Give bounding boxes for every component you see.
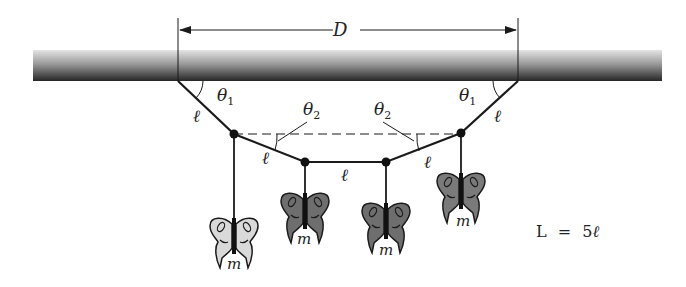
joint-node	[230, 130, 239, 139]
dimension-label: D	[333, 21, 347, 39]
joint-node	[382, 158, 391, 167]
segment-length-label: ℓ	[341, 167, 348, 184]
segment-length-label: ℓ	[494, 108, 501, 125]
diagram-canvas	[0, 0, 686, 287]
total-length-equation: L = 5ℓ	[536, 222, 599, 241]
mass-label: m	[379, 243, 393, 258]
angle-label-theta1-left: θ1	[217, 87, 234, 107]
joint-node	[457, 129, 466, 138]
angle-label-theta2-right: θ2	[374, 101, 391, 121]
mass-label: m	[227, 257, 241, 272]
arrow-right-icon	[505, 26, 517, 34]
segment-length-label: ℓ	[193, 108, 200, 125]
segment-length-label: ℓ	[424, 154, 431, 171]
ceiling	[33, 50, 662, 81]
segment-length-label: ℓ	[262, 150, 269, 167]
mass-label: m	[456, 214, 470, 229]
mobile-diagram: D θ1 θ1 θ2 θ2 ℓ ℓ ℓ ℓ ℓ m m m m L = 5ℓ	[0, 0, 686, 287]
angle-label-theta1-right: θ1	[459, 87, 476, 107]
arrow-left-icon	[179, 26, 191, 34]
joint-node	[301, 158, 310, 167]
mass-label: m	[297, 232, 311, 247]
angle-label-theta2-left: θ2	[303, 101, 320, 121]
